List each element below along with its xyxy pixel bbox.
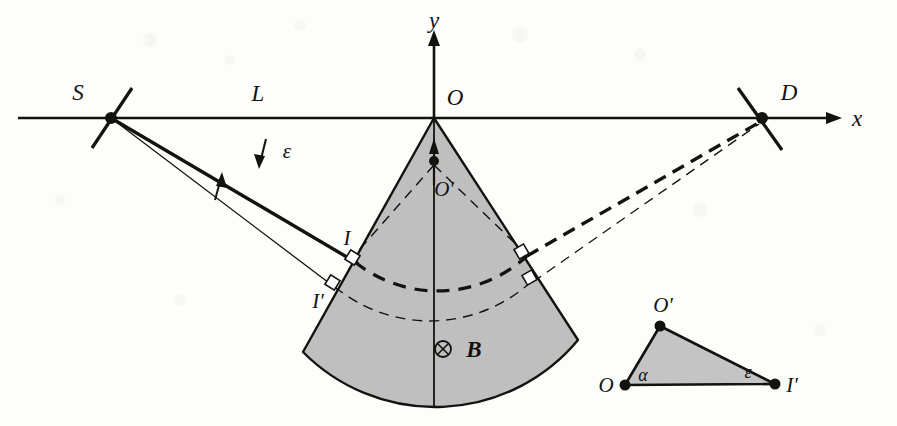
label-detector-d: D	[780, 80, 798, 105]
inset-point-o-prime-dot	[655, 321, 666, 332]
point-d-dot	[756, 112, 768, 124]
inset-label-alpha: α	[638, 365, 648, 385]
inset-point-i-prime-dot	[770, 379, 781, 390]
inset-label-i-prime: I'	[785, 373, 798, 397]
label-o-prime: O'	[434, 177, 454, 201]
figure-root: S D L O x y O' I I' ε B O' O I' α ε	[0, 0, 897, 426]
inset-label-o: O	[598, 373, 613, 397]
inset-label-epsilon: ε	[744, 362, 752, 382]
physics-diagram: S D L O x y O' I I' ε B O' O I' α ε	[0, 0, 897, 426]
label-epsilon-angle: ε	[283, 139, 292, 163]
label-field-b: B	[465, 337, 481, 362]
label-origin-o: O	[447, 85, 464, 110]
point-o-prime-dot	[429, 156, 439, 166]
label-distance-l: L	[251, 81, 265, 106]
label-point-i: I	[343, 226, 352, 250]
inset-point-o-dot	[620, 380, 631, 391]
label-axis-y: y	[427, 8, 440, 33]
label-axis-x: x	[851, 106, 863, 131]
label-source-s: S	[72, 80, 84, 105]
inset-label-o-prime: O'	[653, 293, 673, 317]
label-point-i-prime: I'	[311, 289, 324, 313]
